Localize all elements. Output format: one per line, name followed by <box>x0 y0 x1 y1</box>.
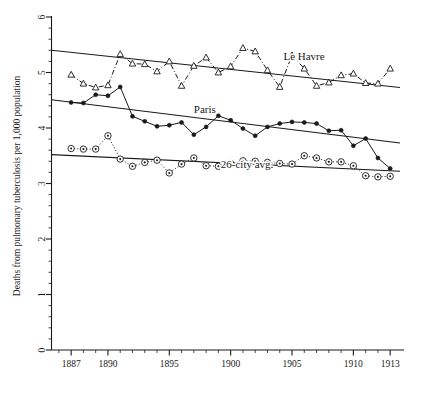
marker-open-triangle <box>68 71 74 77</box>
marker-circle-dot <box>131 165 133 167</box>
marker-filled-circle <box>204 125 208 129</box>
marker-filled-circle <box>192 133 196 137</box>
marker-circle-dot <box>279 162 281 164</box>
series-3 <box>68 133 393 180</box>
marker-open-triangle <box>80 80 86 86</box>
marker-filled-circle <box>216 114 220 118</box>
marker-open-triangle <box>240 45 246 51</box>
marker-open-triangle <box>166 58 172 64</box>
marker-circle-dot <box>316 157 318 159</box>
marker-circle-dot <box>181 163 183 165</box>
marker-filled-circle <box>388 167 392 171</box>
y-tick-label: 0 <box>37 347 47 352</box>
marker-filled-circle <box>167 123 171 127</box>
series-annotation-3: 26-city avg. <box>221 158 274 170</box>
y-tick-label: 4 <box>37 125 47 130</box>
marker-circle-dot <box>217 165 219 167</box>
marker-filled-circle <box>69 100 73 104</box>
marker-open-triangle <box>154 68 160 74</box>
marker-circle-dot <box>119 158 121 160</box>
marker-circle-dot <box>389 175 391 177</box>
y-tick-label: 2 <box>37 236 47 241</box>
marker-open-triangle <box>129 60 135 66</box>
marker-filled-circle <box>327 129 331 133</box>
marker-open-triangle <box>105 82 111 88</box>
marker-circle-dot <box>365 175 367 177</box>
marker-open-triangle <box>215 69 221 75</box>
x-tick-label: 1887 <box>62 359 81 369</box>
marker-filled-circle <box>290 120 294 124</box>
marker-filled-circle <box>180 120 184 124</box>
marker-filled-circle <box>241 127 245 131</box>
marker-circle-dot <box>168 172 170 174</box>
marker-open-triangle <box>338 72 344 78</box>
marker-circle-dot <box>328 161 330 163</box>
y-axis-title-text: Deaths from pulmonary tuberculosis per 1… <box>12 76 22 297</box>
marker-circle-dot <box>107 135 109 137</box>
marker-filled-circle <box>253 134 257 138</box>
marker-circle-dot <box>70 147 72 149</box>
marker-filled-circle <box>339 128 343 132</box>
marker-circle-dot <box>377 176 379 178</box>
marker-open-triangle <box>264 67 270 73</box>
marker-circle-dot <box>193 157 195 159</box>
trend-line <box>52 100 401 143</box>
tuberculosis-mortality-chart: Deaths from pulmonary tuberculosis per 1… <box>0 0 421 394</box>
x-tick-label: 1910 <box>344 359 363 369</box>
trend-lines <box>52 50 401 171</box>
chart-canvas: Deaths from pulmonary tuberculosis per 1… <box>0 0 421 394</box>
marker-filled-circle <box>315 122 319 126</box>
series-annotation-2: Paris <box>194 103 216 115</box>
x-tick-label: 1900 <box>221 359 240 369</box>
x-tick-label: 1913 <box>381 359 400 369</box>
x-tick-label: 1895 <box>160 359 179 369</box>
marker-open-triangle <box>117 51 123 57</box>
marker-circle-dot <box>144 161 146 163</box>
marker-circle-dot <box>156 159 158 161</box>
marker-filled-circle <box>94 93 98 97</box>
marker-filled-circle <box>106 94 110 98</box>
trend-line <box>52 50 401 87</box>
marker-circle-dot <box>303 155 305 157</box>
y-tick-label: 5 <box>37 70 47 75</box>
marker-filled-circle <box>118 85 122 89</box>
marker-circle-dot <box>352 165 354 167</box>
marker-open-triangle <box>387 65 393 71</box>
marker-circle-dot <box>82 148 84 150</box>
y-axis-title: Deaths from pulmonary tuberculosis per 1… <box>12 76 22 297</box>
y-tick-label: 6 <box>37 14 47 19</box>
marker-filled-circle <box>265 125 269 129</box>
marker-open-triangle <box>362 80 368 86</box>
marker-filled-circle <box>81 101 85 105</box>
marker-circle-dot <box>340 161 342 163</box>
marker-filled-circle <box>278 122 282 126</box>
marker-circle-dot <box>291 163 293 165</box>
marker-filled-circle <box>351 144 355 148</box>
marker-open-triangle <box>178 82 184 88</box>
marker-circle-dot <box>205 165 207 167</box>
series-annotation-1: Le Havre <box>283 50 324 62</box>
marker-open-triangle <box>142 61 148 67</box>
axes <box>52 16 405 350</box>
x-tick-label: 1905 <box>283 359 302 369</box>
marker-filled-circle <box>130 114 134 118</box>
marker-filled-circle <box>229 118 233 122</box>
series-1 <box>68 45 394 90</box>
marker-filled-circle <box>376 156 380 160</box>
marker-open-triangle <box>203 54 209 60</box>
marker-open-triangle <box>350 70 356 76</box>
marker-filled-circle <box>364 137 368 141</box>
y-tick-label: 3 <box>37 181 47 186</box>
marker-filled-circle <box>143 119 147 123</box>
marker-circle-dot <box>95 148 97 150</box>
y-tick-label: 1 <box>37 292 47 297</box>
x-tick-label: 1890 <box>98 359 117 369</box>
marker-filled-circle <box>302 120 306 124</box>
marker-filled-circle <box>155 124 159 128</box>
